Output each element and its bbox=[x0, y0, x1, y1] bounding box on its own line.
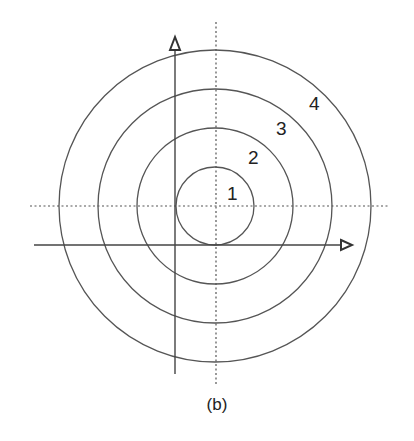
concentric-circles-diagram: 1 2 3 4 (b) bbox=[0, 0, 414, 441]
circle-label-2: 2 bbox=[248, 147, 259, 168]
circle-label-1: 1 bbox=[227, 183, 238, 204]
arrow-up-icon bbox=[170, 37, 180, 50]
circle-label-3: 3 bbox=[276, 118, 287, 139]
arrow-right-icon bbox=[341, 240, 352, 250]
circle-label-4: 4 bbox=[309, 93, 320, 114]
figure-caption: (b) bbox=[207, 395, 228, 414]
